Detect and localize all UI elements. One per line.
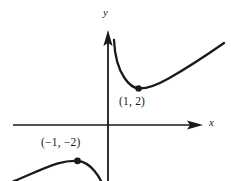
local-minimum-point (135, 85, 141, 91)
graph-figure: y x (1, 2) (−1, −2) (0, 0, 231, 181)
local-maximum-label: (−1, −2) (41, 137, 80, 149)
x-axis-label: x (209, 117, 214, 128)
local-maximum-point (74, 157, 81, 164)
y-axis-label: y (103, 7, 108, 18)
curve-upper-branch (114, 40, 224, 88)
coordinate-plane (0, 0, 231, 181)
curve-lower-branch (12, 161, 102, 181)
local-minimum-label: (1, 2) (119, 96, 145, 108)
